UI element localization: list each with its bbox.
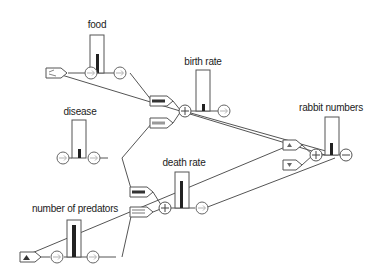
switch-bar-icon <box>132 191 145 194</box>
label-food: food <box>88 19 107 30</box>
label-rabbit-numbers: rabbit numbers <box>299 102 363 113</box>
link-birth-rabbit <box>180 110 340 155</box>
switch-rabbit-down[interactable] <box>283 160 302 170</box>
diagram-canvas <box>0 0 382 276</box>
switch-death-predators[interactable] <box>130 207 153 217</box>
label-birth-rate: birth rate <box>184 56 221 67</box>
gauge-death-rate <box>175 172 189 208</box>
gauge-disease <box>72 120 86 158</box>
gauge-rabbit-numbers <box>325 117 339 155</box>
gauge-number-of-predators <box>67 220 81 257</box>
switch-bar-icon <box>152 122 165 125</box>
link-disease-birth <box>122 123 152 158</box>
label-death-rate: death rate <box>162 157 205 168</box>
switch-food-source[interactable] <box>46 68 67 78</box>
switch-bar-icon <box>152 100 165 103</box>
link-predator-death <box>122 212 132 257</box>
gauge-birth-rate <box>196 70 210 111</box>
switch-predator-source[interactable] <box>20 252 41 262</box>
link-death-rabbit <box>205 158 335 208</box>
label-number-of-predators: number of predators <box>32 203 118 214</box>
switch-rabbit-up[interactable] <box>283 140 302 150</box>
label-disease: disease <box>63 106 96 117</box>
